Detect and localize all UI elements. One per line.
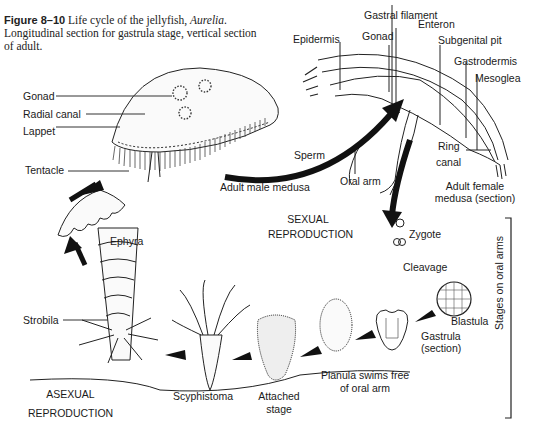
label-mesoglea: Mesoglea: [475, 72, 521, 84]
label-blastula: Blastula: [451, 315, 488, 327]
label-sexual-reproduction: SEXUAL REPRODUCTION: [268, 212, 348, 242]
label-ring: Ring: [438, 140, 460, 152]
label-subgenital-pit: Subgenital pit: [438, 34, 502, 46]
label-attached-stage: Attached stage: [254, 390, 304, 416]
label-canal: canal: [436, 156, 461, 168]
label-ephyra: Ephyra: [110, 235, 143, 247]
label-adult-male-medusa: Adult male medusa: [220, 181, 310, 193]
label-sperm: Sperm: [294, 149, 325, 161]
label-asexual-reproduction: ASEXUAL REPRODUCTION: [28, 385, 113, 423]
label-oral-arm: Oral arm: [340, 175, 381, 187]
label-cleavage: Cleavage: [403, 261, 447, 273]
label-gastrula: Gastrula (section): [421, 330, 461, 354]
label-zygote: Zygote: [409, 228, 441, 240]
label-lappet: Lappet: [23, 125, 55, 137]
label-gastrodermis: Gastrodermis: [454, 55, 517, 67]
label-radial-canal: Radial canal: [23, 108, 81, 120]
label-epidermis: Epidermis: [293, 33, 340, 45]
label-gonad-male: Gonad: [23, 90, 55, 102]
label-tentacle: Tentacle: [25, 164, 64, 176]
label-gonad-female: Gonad: [362, 30, 394, 42]
label-stages-on-oral-arms: Stages on oral arms: [493, 236, 505, 330]
label-strobila: Strobila: [23, 314, 59, 326]
label-adult-female-medusa: Adult female medusa (section): [430, 180, 520, 204]
label-planula: Planula swims free of oral arm: [310, 369, 420, 395]
label-enteron: Enteron: [418, 18, 455, 30]
label-scyphistoma: Scyphistoma: [173, 390, 233, 402]
adult-male-medusa-drawing: [112, 68, 278, 182]
